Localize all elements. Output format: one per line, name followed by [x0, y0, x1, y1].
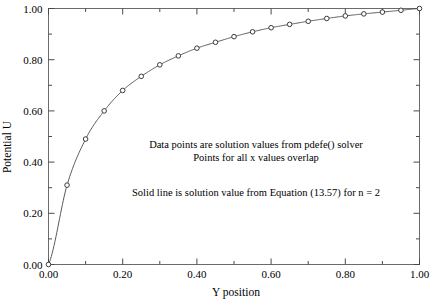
data-point-marker — [232, 34, 237, 39]
data-point-marker — [399, 8, 404, 13]
chart-page: 0.000.200.400.600.801.00 0.000.200.400.6… — [0, 0, 433, 303]
y-tick-label: 0.80 — [23, 54, 43, 66]
x-axis-title: Y position — [212, 286, 260, 299]
data-point-marker — [250, 30, 255, 35]
x-tick-label: 1.00 — [410, 268, 430, 280]
y-tick-label: 0.20 — [23, 207, 43, 219]
data-point-marker — [306, 19, 311, 24]
x-tick-label: 0.80 — [336, 268, 356, 280]
data-point-marker — [287, 22, 292, 27]
data-point-marker — [417, 6, 422, 11]
y-tick-label: 0.00 — [23, 259, 43, 271]
y-tick-label: 0.60 — [23, 105, 43, 117]
data-point-marker — [380, 10, 385, 15]
data-point-marker — [362, 12, 367, 17]
y-tick-label: 1.00 — [23, 3, 43, 15]
data-point-marker — [46, 262, 51, 267]
data-point-marker — [102, 109, 107, 114]
data-point-marker — [120, 88, 125, 93]
data-point-marker — [324, 16, 329, 21]
annotation-line-3: Solid line is solution value from Equati… — [132, 187, 380, 199]
data-point-marker — [139, 74, 144, 79]
data-point-marker — [213, 40, 218, 45]
annotation-line-2: Points for all x values overlap — [193, 152, 319, 163]
y-tick-label: 0.40 — [23, 156, 43, 168]
data-point-marker — [158, 63, 163, 68]
data-point-marker — [65, 183, 70, 188]
x-tick-label: 0.40 — [187, 268, 207, 280]
data-point-marker — [83, 137, 88, 142]
chart-canvas: 0.000.200.400.600.801.00 0.000.200.400.6… — [0, 0, 433, 303]
data-point-marker — [195, 46, 200, 51]
x-tick-label: 0.20 — [113, 268, 133, 280]
annotation-line-1: Data points are solution values from pde… — [149, 139, 363, 151]
y-axis-title: Potential U — [1, 120, 13, 173]
x-tick-label: 0.60 — [261, 268, 281, 280]
data-point-marker — [176, 54, 181, 59]
data-point-marker — [269, 25, 274, 30]
data-point-marker — [343, 14, 348, 19]
